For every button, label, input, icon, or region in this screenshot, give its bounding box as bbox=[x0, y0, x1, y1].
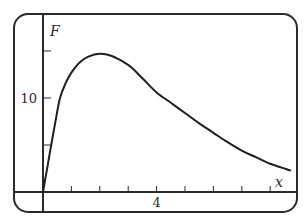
x-tick-label: 4 bbox=[152, 195, 160, 210]
chart: 410 F x bbox=[0, 0, 306, 221]
y-axis-label: F bbox=[49, 23, 61, 39]
series-line-F bbox=[43, 54, 290, 192]
x-axis-label: x bbox=[275, 174, 283, 190]
y-ticks bbox=[43, 51, 51, 145]
y-tick-label: 10 bbox=[20, 91, 37, 106]
